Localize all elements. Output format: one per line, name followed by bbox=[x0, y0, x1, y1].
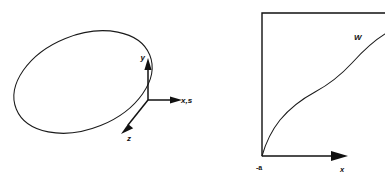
axis-xs: x,s bbox=[148, 96, 193, 105]
axis-x-arrowhead bbox=[331, 151, 348, 161]
axis-y-label: y bbox=[140, 53, 146, 62]
axis-z-line bbox=[128, 100, 148, 125]
left-panel-orbit-diagram: y x,s z bbox=[0, 11, 193, 152]
w-curve: W bbox=[262, 33, 385, 156]
origin-tick: -a bbox=[256, 164, 262, 171]
axis-y: y bbox=[140, 53, 152, 100]
axis-z-label: z bbox=[126, 134, 131, 143]
orbit-ellipse-path bbox=[0, 11, 167, 152]
plot-frame-path bbox=[262, 13, 385, 156]
axis-x: x bbox=[262, 151, 348, 174]
axis-z: z bbox=[121, 100, 148, 143]
axis-xs-label: x,s bbox=[180, 96, 193, 105]
origin-label: -a bbox=[256, 164, 262, 171]
plot-frame bbox=[262, 13, 385, 156]
figure-root: y x,s z x bbox=[0, 0, 385, 179]
axis-z-arrowhead bbox=[121, 124, 133, 134]
orbit-ellipse bbox=[0, 11, 167, 152]
w-curve-label: W bbox=[354, 33, 363, 42]
w-curve-path bbox=[262, 34, 385, 156]
axis-y-arrowhead bbox=[144, 58, 151, 70]
technical-figure-canvas: y x,s z x bbox=[0, 0, 385, 179]
right-panel-curve-plot: x -a W bbox=[256, 13, 385, 174]
axis-x-label: x bbox=[339, 165, 345, 174]
